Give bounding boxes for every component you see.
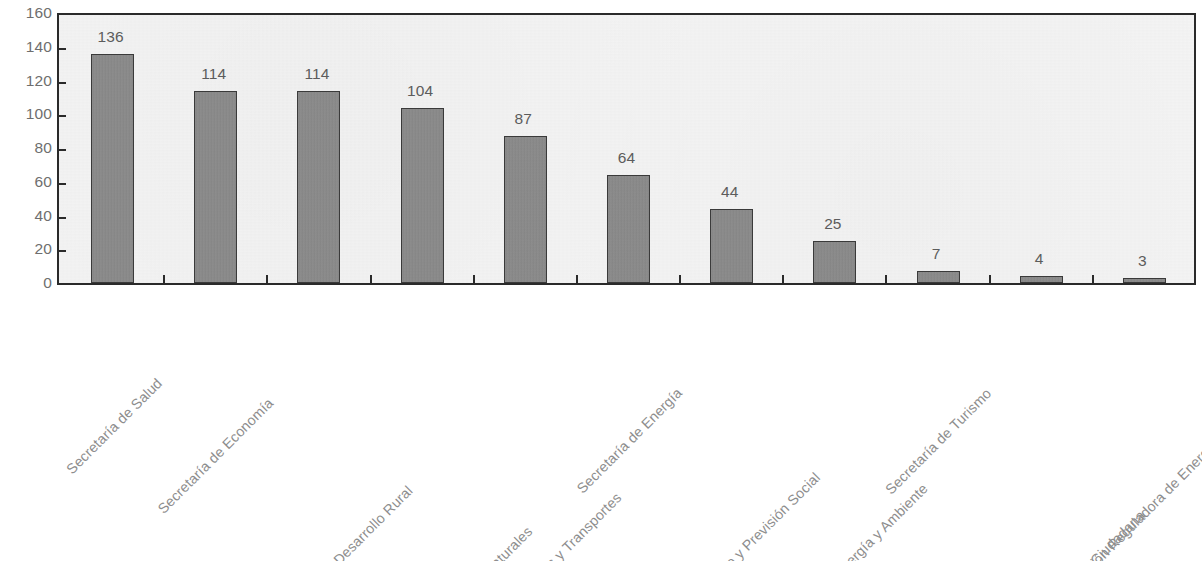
bar (1123, 278, 1166, 283)
x-axis-category-label: Comisión Reguladora de Energía (1060, 437, 1202, 561)
bar-value-label: 114 (277, 66, 357, 82)
y-axis-tick-mark (59, 115, 66, 117)
bar (710, 209, 753, 283)
x-axis-tick-mark (989, 275, 991, 283)
bar-value-label: 4 (999, 251, 1079, 267)
x-axis-category-label: Secretaría de Agricultura y Desarrollo R… (207, 483, 415, 561)
bar (297, 91, 340, 283)
y-axis-tick-mark (59, 217, 66, 219)
bar-value-label: 44 (690, 184, 770, 200)
y-axis-tick-label: 160 (0, 5, 52, 21)
x-axis-category-label: Secretaría de Medio Ambiente y Recursos … (286, 524, 535, 561)
bar-chart: 020406080100120140160 136114114104876444… (0, 0, 1202, 561)
bar-value-label: 25 (793, 216, 873, 232)
bar-value-label: 114 (174, 66, 254, 82)
y-axis-tick-mark (59, 48, 66, 50)
bar-value-label: 87 (483, 111, 563, 127)
y-axis-tick-mark (59, 149, 66, 151)
x-axis-tick-mark (576, 275, 578, 283)
bar (607, 175, 650, 283)
y-axis-tick-mark (59, 82, 66, 84)
x-axis-tick-mark (163, 275, 165, 283)
x-axis-category-label: Secretaría del Trabajo y Previsión Socia… (627, 470, 822, 561)
bar (504, 136, 547, 283)
x-axis-category-label: Secretaría de Economía (155, 396, 276, 517)
bar-value-label: 64 (587, 150, 667, 166)
y-axis-tick-label: 120 (0, 73, 52, 89)
bar (194, 91, 237, 283)
bar (1020, 276, 1063, 283)
x-axis-category-label: Secretaría de Energía (574, 385, 684, 495)
x-axis-tick-mark (266, 275, 268, 283)
x-axis-category-label: Secretaría de Salud (63, 376, 164, 477)
bar-value-label: 136 (71, 29, 151, 45)
y-axis-tick-label: 80 (0, 140, 52, 156)
x-axis-tick-mark (473, 275, 475, 283)
x-axis-tick-mark (782, 275, 784, 283)
y-axis-tick-label: 100 (0, 106, 52, 122)
x-axis-category-label: Secretaría de Turismo (883, 386, 994, 497)
x-axis-category-label: Agencia de Seguridad, Energía y Ambiente (724, 481, 930, 561)
x-axis-tick-mark (1092, 275, 1094, 283)
y-axis-tick-label: 60 (0, 174, 52, 190)
bar-value-label: 3 (1102, 253, 1182, 269)
x-axis-tick-mark (885, 275, 887, 283)
y-axis-tick-mark (59, 183, 66, 185)
bar (813, 241, 856, 283)
bar-value-label: 7 (896, 246, 976, 262)
y-axis-tick-label: 40 (0, 208, 52, 224)
bar-value-label: 104 (380, 83, 460, 99)
y-axis-tick-label: 140 (0, 39, 52, 55)
x-axis: Secretaría de SaludSecretaría de Economí… (0, 285, 1202, 561)
y-axis-tick-mark (59, 250, 66, 252)
bar (401, 108, 444, 284)
x-axis-tick-mark (370, 275, 372, 283)
x-axis-tick-mark (679, 275, 681, 283)
y-axis: 020406080100120140160 (0, 0, 52, 300)
y-axis-tick-label: 20 (0, 241, 52, 257)
bar (91, 54, 134, 284)
bar (917, 271, 960, 283)
